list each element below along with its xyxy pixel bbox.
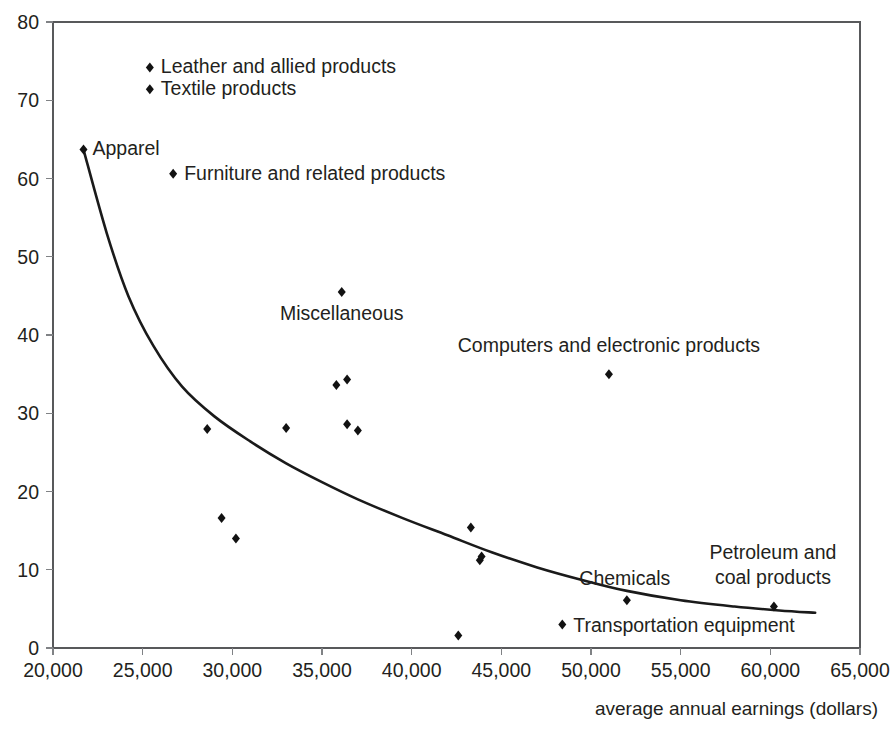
y-tick-label: 70 xyxy=(17,89,39,111)
y-axis-tick-labels: 01020304050607080 xyxy=(17,11,39,659)
y-tick-label: 60 xyxy=(17,168,39,190)
point-label: coal products xyxy=(715,566,831,588)
x-tick-label: 25,000 xyxy=(113,659,173,681)
chart-canvas: 01020304050607080 20,00025,00030,00035,0… xyxy=(0,0,893,734)
x-tick-label: 20,000 xyxy=(23,659,83,681)
point-label: Transportation equipment xyxy=(573,614,795,636)
data-point[interactable] xyxy=(146,62,154,72)
data-point[interactable] xyxy=(146,84,154,94)
point-label: Petroleum and xyxy=(710,541,837,563)
x-tick-label: 45,000 xyxy=(472,659,532,681)
scatter-chart: 01020304050607080 20,00025,00030,00035,0… xyxy=(0,0,893,734)
data-point[interactable] xyxy=(623,595,631,605)
point-label: Apparel xyxy=(92,137,159,159)
y-tick-label: 30 xyxy=(17,402,39,424)
data-point[interactable] xyxy=(332,380,340,390)
data-point[interactable] xyxy=(605,369,613,379)
data-point[interactable] xyxy=(203,424,211,434)
data-point[interactable] xyxy=(558,620,566,630)
x-axis-title-group: average annual earnings (dollars) xyxy=(595,698,878,719)
data-point[interactable] xyxy=(467,522,475,532)
data-point[interactable] xyxy=(218,513,226,523)
data-point[interactable] xyxy=(169,169,177,179)
x-axis-title: average annual earnings (dollars) xyxy=(595,698,878,719)
y-tick-label: 40 xyxy=(17,324,39,346)
x-tick-label: 40,000 xyxy=(382,659,442,681)
data-point[interactable] xyxy=(343,419,351,429)
data-point[interactable] xyxy=(79,145,87,155)
point-annotations-group: ApparelLeather and allied productsTextil… xyxy=(92,55,836,635)
x-tick-label: 30,000 xyxy=(203,659,263,681)
data-point[interactable] xyxy=(232,533,240,543)
x-tick-label: 35,000 xyxy=(292,659,352,681)
y-tick-label: 0 xyxy=(28,637,39,659)
data-point[interactable] xyxy=(338,287,346,297)
trend-curve xyxy=(83,150,815,613)
y-tick-label: 80 xyxy=(17,11,39,33)
point-label: Furniture and related products xyxy=(184,162,445,184)
x-tick-label: 50,000 xyxy=(561,659,621,681)
point-label: Textile products xyxy=(161,77,297,99)
point-label: Leather and allied products xyxy=(161,55,396,77)
x-tick-label: 55,000 xyxy=(651,659,711,681)
y-tick-label: 20 xyxy=(17,481,39,503)
trendline xyxy=(83,150,815,613)
x-tick-label: 60,000 xyxy=(741,659,801,681)
data-point[interactable] xyxy=(282,423,290,433)
y-tick-label: 50 xyxy=(17,246,39,268)
x-axis-tick-labels: 20,00025,00030,00035,00040,00045,00050,0… xyxy=(23,659,890,681)
y-tick-label: 10 xyxy=(17,559,39,581)
point-label: Chemicals xyxy=(579,567,670,589)
point-label: Miscellaneous xyxy=(280,302,404,324)
data-point[interactable] xyxy=(354,425,362,435)
point-label: Computers and electronic products xyxy=(458,334,761,356)
data-point[interactable] xyxy=(343,375,351,385)
data-point[interactable] xyxy=(454,630,462,640)
x-tick-label: 65,000 xyxy=(830,659,890,681)
